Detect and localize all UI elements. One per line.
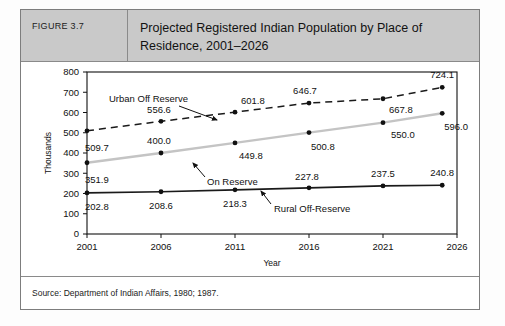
value-label: 500.8 bbox=[311, 141, 335, 152]
y-tick-label: 400 bbox=[63, 147, 79, 158]
series-annotation-label: Urban Off Reserve bbox=[109, 93, 188, 104]
series-line-1 bbox=[87, 113, 442, 162]
value-label: 550.0 bbox=[391, 129, 415, 140]
series-line-2 bbox=[87, 185, 442, 193]
x-tick-label: 2026 bbox=[446, 241, 467, 252]
value-label: 237.5 bbox=[371, 168, 395, 179]
figure-number-cell: FIGURE 3.7 bbox=[21, 10, 128, 61]
figure-title: Projected Registered Indian Population b… bbox=[140, 21, 422, 53]
y-tick-label: 700 bbox=[63, 87, 79, 98]
data-point bbox=[440, 111, 445, 116]
y-tick-label: 200 bbox=[63, 188, 79, 199]
figure-header: FIGURE 3.7 Projected Registered Indian P… bbox=[21, 10, 479, 62]
value-label: 646.7 bbox=[293, 85, 317, 96]
value-label: 596.0 bbox=[444, 121, 468, 132]
data-point bbox=[233, 110, 238, 115]
y-tick-label: 100 bbox=[63, 208, 79, 219]
value-label: 208.6 bbox=[149, 200, 173, 211]
value-label: 202.8 bbox=[85, 201, 109, 212]
source-note: Source: Department of Indian Affairs, 19… bbox=[32, 288, 219, 298]
chart-plot-area: 0100200300400500600700800200120062011201… bbox=[21, 62, 479, 276]
data-point bbox=[381, 96, 386, 101]
data-point bbox=[159, 151, 164, 156]
data-point bbox=[440, 85, 445, 90]
value-label: 227.8 bbox=[295, 171, 319, 182]
data-point bbox=[307, 130, 312, 135]
value-label: 556.6 bbox=[147, 104, 171, 115]
value-label: 351.9 bbox=[85, 174, 109, 185]
figure-container: FIGURE 3.7 Projected Registered Indian P… bbox=[20, 9, 480, 310]
y-tick-label: 0 bbox=[74, 228, 79, 239]
value-label: 509.7 bbox=[85, 142, 109, 153]
value-label: 218.3 bbox=[223, 198, 247, 209]
data-point bbox=[440, 183, 445, 188]
data-point bbox=[233, 141, 238, 146]
data-point bbox=[381, 184, 386, 189]
data-point bbox=[85, 191, 90, 196]
value-label: 724.1 bbox=[430, 69, 454, 80]
x-tick-label: 2011 bbox=[225, 241, 245, 252]
annotation-leader bbox=[193, 163, 205, 177]
value-label: 601.8 bbox=[241, 95, 265, 106]
y-tick-label: 800 bbox=[63, 66, 79, 77]
x-tick-label: 2006 bbox=[150, 241, 171, 252]
series-annotation-label: On Reserve bbox=[207, 176, 258, 187]
y-tick-label: 500 bbox=[63, 127, 79, 138]
data-point bbox=[85, 128, 90, 133]
series-annotation-label: Rural Off-Reserve bbox=[274, 203, 350, 214]
x-tick-label: 2001 bbox=[76, 241, 97, 252]
x-tick-label: 2021 bbox=[372, 241, 393, 252]
y-tick-label: 600 bbox=[63, 107, 79, 118]
value-label: 449.8 bbox=[239, 150, 263, 161]
data-point bbox=[85, 160, 90, 165]
y-axis-title: Thousands bbox=[43, 132, 53, 174]
value-label: 240.8 bbox=[430, 167, 454, 178]
data-point bbox=[159, 189, 164, 194]
data-point bbox=[307, 185, 312, 190]
figure-title-cell: Projected Registered Indian Population b… bbox=[128, 10, 479, 61]
value-label: 667.8 bbox=[389, 104, 413, 115]
data-point bbox=[233, 187, 238, 192]
x-tick-label: 2016 bbox=[298, 241, 319, 252]
figure-number-label: FIGURE 3.7 bbox=[32, 21, 84, 31]
data-point bbox=[381, 120, 386, 125]
data-point bbox=[159, 119, 164, 124]
value-label: 400.0 bbox=[147, 135, 171, 146]
source-row: Source: Department of Indian Affairs, 19… bbox=[21, 277, 479, 309]
annotation-leader bbox=[261, 191, 271, 204]
x-axis-title: Year bbox=[263, 258, 280, 268]
y-tick-label: 300 bbox=[63, 168, 79, 179]
line-chart: 0100200300400500600700800200120062011201… bbox=[21, 62, 479, 276]
data-point bbox=[307, 101, 312, 106]
